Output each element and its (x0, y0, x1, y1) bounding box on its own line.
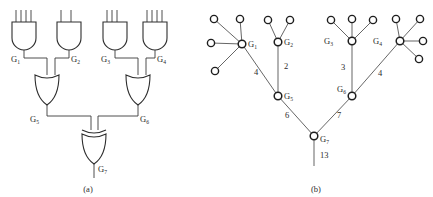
leaf-node (419, 37, 426, 44)
tree-node-g6-label: G6 (337, 84, 346, 95)
gate-g4-input-pins (147, 10, 162, 22)
gate-g6-label: G6 (140, 114, 149, 125)
tree-node-g1-label: G1 (248, 39, 257, 50)
gate-g6-output-wire (98, 105, 138, 130)
gate-g1[interactable]: G1 (11, 10, 47, 75)
leaf-node (327, 16, 334, 23)
gate-g5-label: G5 (30, 114, 39, 125)
gate-g1-label: G1 (11, 54, 20, 65)
tree-node-g6[interactable]: G6 (337, 84, 356, 100)
gate-g4-output-wire (146, 50, 155, 75)
leaf-node (415, 55, 422, 62)
edge-weight-g5-g7: 6 (285, 110, 289, 120)
tree-node-g5[interactable]: G5 (274, 91, 293, 102)
edge-weight-root: 13 (320, 150, 329, 160)
and-gate-body-g4 (143, 22, 167, 50)
tree-internal-edges (242, 41, 400, 166)
gate-g4[interactable]: G4 (143, 10, 167, 75)
tree-node-g4-label: G4 (373, 36, 382, 47)
gate-g2-output-wire (55, 50, 69, 75)
edge-weight-g2-g5: 2 (284, 61, 288, 71)
gate-g3-label: G3 (101, 54, 110, 65)
figure-container: G1 G2 G3 (0, 0, 433, 197)
panel-b-weighted-tree: G1 G2 G3 G4 G5 G6 G7 4 2 3 4 6 (207, 15, 426, 194)
gate-g2-input-pins (61, 10, 71, 22)
leaf-node (207, 39, 214, 46)
leaf-node (416, 15, 423, 22)
tree-node-g5-label: G5 (284, 91, 293, 102)
leaf-node (392, 15, 399, 22)
and-gate-body-g3 (103, 22, 127, 50)
edge-weight-g3-g6: 3 (341, 62, 345, 72)
leaf-node (211, 67, 218, 74)
edge-g1-g5 (242, 44, 278, 96)
tree-node-g7[interactable]: G7 (310, 132, 329, 145)
gate-g7[interactable]: G7 (82, 130, 107, 178)
edge-g4-g6 (352, 41, 400, 96)
gate-g4-label: G4 (157, 54, 166, 65)
leaf-node (236, 15, 243, 22)
edge-g5-g7 (278, 96, 314, 136)
leaf-node (369, 16, 376, 23)
gate-g3[interactable]: G3 (101, 10, 138, 75)
gate-g6[interactable]: G6 (98, 75, 150, 130)
caption-a: (a) (83, 184, 93, 194)
leaf-node (210, 15, 217, 22)
tree-node-g4[interactable]: G4 (373, 36, 404, 47)
panel-a-logic-circuit: G1 G2 G3 (11, 10, 167, 194)
gate-g1-input-pins (16, 10, 31, 22)
caption-b: (b) (311, 184, 321, 194)
and-gate-body-g1 (12, 22, 36, 50)
xor-extra-arc-g7 (82, 130, 106, 133)
gate-g3-input-pins (107, 10, 117, 22)
edge-weight-g1-g5: 4 (254, 67, 259, 77)
edge-g6-g7 (314, 96, 352, 136)
or-gate-body-g5 (35, 75, 59, 105)
gate-g2[interactable]: G2 (55, 10, 81, 75)
tree-node-g1[interactable]: G1 (238, 39, 257, 50)
tree-node-g2-label: G2 (284, 37, 293, 48)
gate-g1-output-wire (24, 50, 47, 75)
gate-g7-label: G7 (98, 164, 107, 175)
and-gate-body-g2 (57, 22, 81, 50)
edge-weight-g6-g7: 7 (337, 110, 341, 120)
gate-g5-output-wire (47, 105, 91, 130)
or-gate-body-g6 (126, 75, 150, 105)
tree-node-g7-label: G7 (320, 134, 329, 145)
leaf-node (286, 16, 293, 23)
gate-g3-output-wire (115, 50, 138, 75)
gate-g2-label: G2 (71, 54, 80, 65)
g1-leaf-edges (211, 19, 242, 71)
tree-node-g2[interactable]: G2 (274, 37, 293, 48)
leaf-node (348, 15, 355, 22)
tree-node-g3[interactable]: G3 (324, 36, 356, 47)
tree-node-g3-label: G3 (324, 36, 333, 47)
xor-gate-body-g7 (82, 134, 106, 164)
edge-weight-g4-g6: 4 (378, 68, 383, 78)
gate-g5[interactable]: G5 (30, 75, 91, 130)
leaf-node (264, 16, 271, 23)
